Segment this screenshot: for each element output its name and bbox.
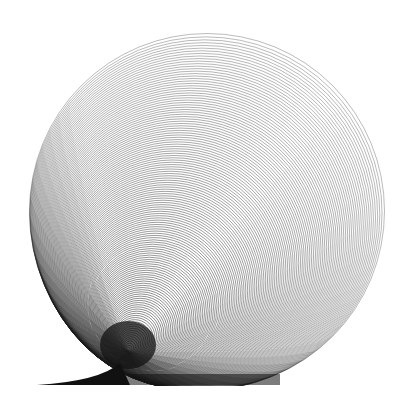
generative-artwork: [0, 0, 417, 416]
concentric-rings: [30, 34, 385, 391]
